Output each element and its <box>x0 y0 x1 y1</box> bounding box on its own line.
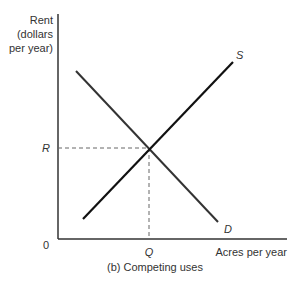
origin-label: 0 <box>43 239 49 251</box>
supply-curve <box>83 62 233 219</box>
supply-demand-chart: Rent (dollars per year) R 0 Q S D Acres … <box>0 0 299 285</box>
y-axis-label-line1: Rent <box>30 14 53 26</box>
y-axis-label-line3: per year) <box>9 42 53 54</box>
demand-label: D <box>224 223 232 235</box>
supply-label: S <box>236 49 244 61</box>
quantity-label-q: Q <box>145 246 154 258</box>
y-axis-label-line2: (dollars <box>17 28 54 40</box>
chart-caption: (b) Competing uses <box>107 261 203 273</box>
price-label-r: R <box>42 142 50 154</box>
demand-curve <box>76 71 218 222</box>
x-axis-label: Acres per year <box>215 246 287 258</box>
